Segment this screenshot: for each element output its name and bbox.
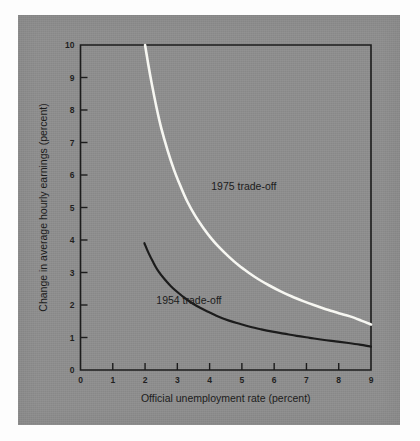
figure-root: 0123456789100123456789 1975 trade-off195… [0, 0, 420, 441]
x-tick-label: 7 [304, 375, 309, 385]
y-tick-label: 8 [70, 105, 75, 115]
y-tick-label: 0 [70, 365, 75, 375]
y-tick-label: 7 [70, 138, 75, 148]
y-tick-label: 5 [70, 203, 75, 213]
y-tick-label: 10 [65, 40, 75, 50]
x-tick-label: 9 [369, 375, 374, 385]
x-tick-label: 2 [143, 375, 148, 385]
series-label-1954: 1954 trade-off [156, 294, 221, 306]
y-tick-label: 9 [70, 73, 75, 83]
y-axis-title: Change in average hourly earnings (perce… [37, 103, 49, 311]
x-axis-title: Official unemployment rate (percent) [141, 392, 311, 404]
x-tick-label: 4 [207, 375, 212, 385]
phillips-curve-chart: 0123456789100123456789 1975 trade-off195… [0, 0, 420, 441]
y-tick-label: 3 [70, 268, 75, 278]
y-tick-label: 6 [70, 170, 75, 180]
x-tick-label: 5 [240, 375, 245, 385]
x-tick-label: 6 [272, 375, 277, 385]
x-tick-label: 1 [110, 375, 115, 385]
x-tick-label: 3 [175, 375, 180, 385]
axis-frame [81, 45, 372, 370]
data-series: 1975 trade-off1954 trade-off [144, 45, 371, 347]
x-tick-label: 8 [336, 375, 341, 385]
y-tick-label: 1 [70, 333, 75, 343]
y-tick-label: 2 [70, 300, 75, 310]
x-tick-label: 0 [78, 375, 83, 385]
y-tick-label: 4 [70, 235, 75, 245]
axes: 0123456789100123456789 [65, 40, 374, 384]
series-label-1975: 1975 trade-off [211, 180, 276, 192]
axis-titles: Official unemployment rate (percent)Chan… [37, 103, 311, 404]
